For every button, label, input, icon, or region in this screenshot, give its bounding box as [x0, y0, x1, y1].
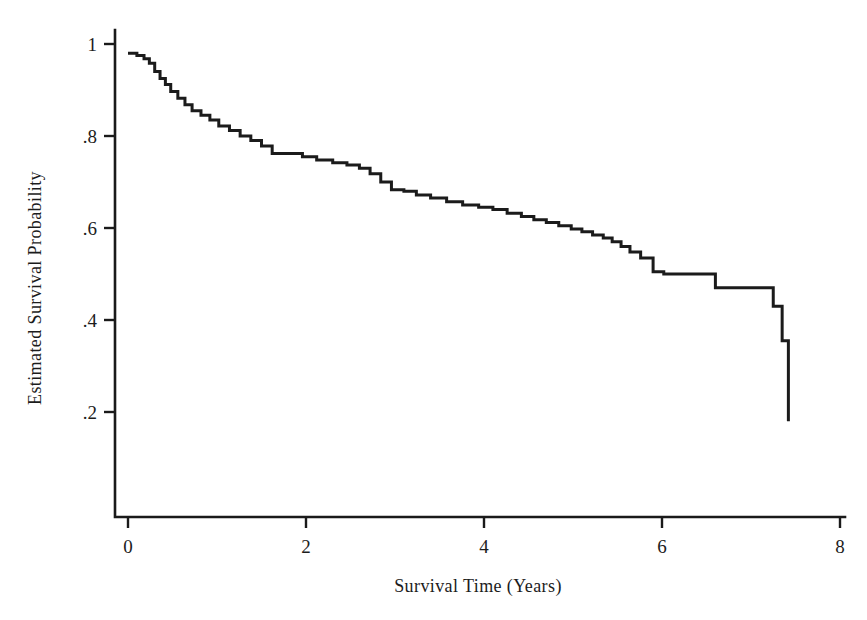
y-tick-label: 1 — [88, 34, 98, 55]
tick-label-group: .2.4.6.8102468 — [83, 34, 845, 557]
kaplan-meier-curve — [128, 53, 788, 421]
y-axis-title: Estimated Survival Probability — [25, 171, 45, 405]
x-tick-label: 2 — [301, 536, 311, 557]
y-tick-label: .4 — [83, 310, 98, 331]
y-tick-label: .8 — [83, 126, 97, 147]
x-axis-title: Survival Time (Years) — [394, 576, 562, 597]
tick-group — [104, 44, 840, 528]
x-tick-label: 8 — [835, 536, 845, 557]
axis-spines — [115, 30, 845, 517]
axis-group — [115, 30, 845, 517]
x-tick-label: 0 — [123, 536, 133, 557]
survival-curve-figure: .2.4.6.8102468 Survival Time (Years) Est… — [0, 0, 867, 620]
x-tick-label: 6 — [657, 536, 667, 557]
x-tick-label: 4 — [479, 536, 489, 557]
plot-area: .2.4.6.8102468 Survival Time (Years) Est… — [0, 0, 867, 620]
y-tick-label: .6 — [83, 218, 97, 239]
y-tick-label: .2 — [83, 402, 97, 423]
